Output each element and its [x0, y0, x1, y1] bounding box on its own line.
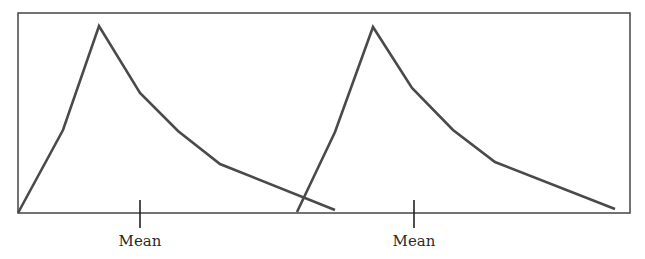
mean-label-left: Mean	[119, 232, 162, 250]
mean-label-right: Mean	[393, 232, 436, 250]
distribution-curve-2	[297, 27, 615, 212]
distribution-curve-1	[18, 26, 335, 213]
figure-canvas	[0, 0, 645, 259]
